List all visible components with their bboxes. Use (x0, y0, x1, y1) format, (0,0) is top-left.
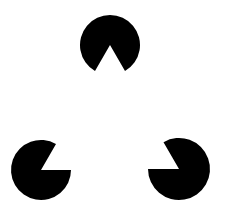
pacman-inducer-bottom-left (11, 140, 71, 200)
illusion-diagram (0, 0, 225, 212)
kanizsa-triangle-figure (0, 0, 225, 212)
pacman-inducer-top (80, 15, 140, 71)
pacman-inducer-bottom-right (148, 138, 210, 200)
